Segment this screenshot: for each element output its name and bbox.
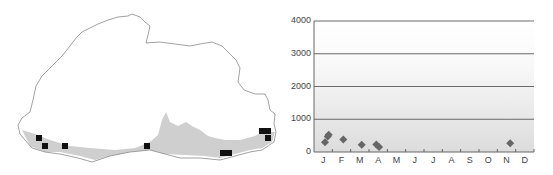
locality-marker [265,135,271,141]
country-outline [18,14,276,162]
distribution-map [0,0,290,175]
locality-marker [265,128,271,134]
x-tick-label: A [371,155,385,165]
x-tick-label: O [481,155,495,165]
locality-marker [226,150,232,156]
x-tick-label: D [518,155,532,165]
x-tick-label: J [426,155,440,165]
locality-marker [220,150,226,156]
elevation-chart: 01000200030004000 JFMAMJJASOND [280,0,553,175]
x-tick-label: M [390,155,404,165]
x-tick-label: M [353,155,367,165]
x-tick-label: S [463,155,477,165]
y-tick-label: 0 [277,146,311,156]
locality-marker [144,143,150,149]
map-svg [0,0,290,175]
x-tick-label: N [500,155,514,165]
lowland-band [22,112,275,160]
locality-marker [62,143,68,149]
x-tick-label: F [335,155,349,165]
y-tick-label: 1000 [277,113,311,123]
x-tick-label: J [408,155,422,165]
x-tick-label: A [445,155,459,165]
y-tick-label: 4000 [277,15,311,25]
chart-svg [280,0,553,175]
locality-marker [42,143,48,149]
x-tick-label: J [316,155,330,165]
locality-marker [36,135,42,141]
locality-marker [259,128,265,134]
y-tick-label: 3000 [277,48,311,58]
y-tick-label: 2000 [277,81,311,91]
